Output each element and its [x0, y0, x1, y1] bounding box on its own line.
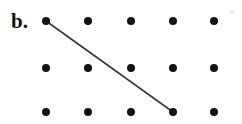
- grid-dot-r1-c1: [42, 17, 50, 25]
- grid-dot-r3-c1: [42, 108, 50, 116]
- grid-dot-r1-c2: [84, 17, 92, 25]
- grid-dot-r2-c3: [127, 64, 135, 72]
- dots-layer: [42, 17, 218, 116]
- grid-dot-r3-c5: [210, 108, 218, 116]
- grid-dot-r1-c5: [210, 17, 218, 25]
- grid-dot-r1-c4: [169, 17, 177, 25]
- figure-container: b. *: [0, 0, 242, 124]
- grid-dot-r3-c2: [84, 108, 92, 116]
- grid-dot-r3-c3: [127, 108, 135, 116]
- grid-dot-r2-c5: [210, 64, 218, 72]
- segments-layer: [46, 21, 173, 112]
- grid-dot-r2-c2: [84, 64, 92, 72]
- grid-dot-r3-c4: [169, 108, 177, 116]
- grid-dot-r2-c4: [169, 64, 177, 72]
- dot-grid-canvas: [0, 0, 242, 124]
- diagonal-segment: [46, 21, 173, 112]
- corner-asterisk-icon: *: [229, 8, 235, 19]
- grid-dot-r1-c3: [127, 17, 135, 25]
- grid-dot-r2-c1: [42, 64, 50, 72]
